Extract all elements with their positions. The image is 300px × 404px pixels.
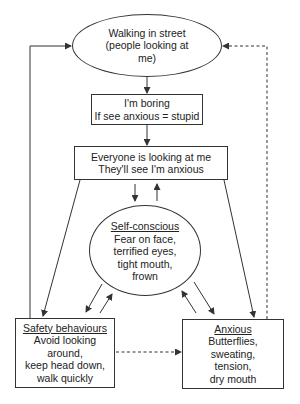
node-self-conscious-title: Self-conscious — [111, 220, 179, 233]
node-self-conscious-line-2: terrified eyes, — [113, 245, 176, 258]
node-self-conscious: Self-conscious Fear on face, terrified e… — [89, 205, 201, 296]
node-safety-line-2: around, — [47, 347, 83, 360]
arrow-everyone-to-anxious — [224, 180, 254, 317]
node-boring-line-1: I'm boring — [124, 97, 170, 110]
arrow-safety-to-self-conscious — [100, 294, 112, 313]
arrow-anxious-to-self-conscious — [182, 291, 196, 313]
node-everyone-line-2: They'll see I'm anxious — [98, 163, 204, 176]
node-im-boring: I'm boring If see anxious = stupid — [91, 94, 203, 125]
node-anxious-title: Anxious — [214, 323, 251, 336]
node-walking-line-3: me) — [138, 52, 156, 65]
arrow-everyone-to-safety — [43, 180, 80, 316]
node-self-conscious-line-4: frown — [132, 270, 158, 283]
cognitive-model-diagram: Walking in street (people looking at me)… — [0, 0, 300, 404]
node-anxious: Anxious Butterflies, sweating, tension, … — [182, 319, 284, 389]
node-self-conscious-line-3: tight mouth, — [118, 258, 173, 271]
node-anxious-line-3: tension, — [215, 360, 252, 373]
node-boring-line-2: If see anxious = stupid — [95, 110, 200, 123]
node-anxious-line-4: dry mouth — [210, 373, 257, 386]
node-safety-title: Safety behaviours — [23, 322, 107, 335]
node-self-conscious-line-1: Fear on face, — [114, 233, 176, 246]
arrow-self-conscious-to-anxious — [194, 282, 214, 314]
node-safety-line-3: keep head down, — [25, 359, 105, 372]
node-everyone-line-1: Everyone is looking at me — [91, 151, 211, 164]
arrow-self-conscious-to-safety — [86, 284, 102, 312]
arrow-safety-to-walking — [30, 46, 71, 318]
node-safety-line-4: walk quickly — [37, 372, 93, 385]
node-anxious-line-2: sweating, — [211, 348, 255, 361]
node-safety-line-1: Avoid looking — [34, 334, 96, 347]
node-walking-in-street: Walking in street (people looking at me) — [72, 14, 222, 77]
node-walking-line-2: (people looking at — [106, 39, 189, 52]
node-walking-line-1: Walking in street — [108, 27, 185, 40]
node-safety-behaviours: Safety behaviours Avoid looking around, … — [15, 318, 115, 388]
node-anxious-line-1: Butterflies, — [208, 335, 258, 348]
node-everyone-looking: Everyone is looking at me They'll see I'… — [74, 146, 228, 180]
